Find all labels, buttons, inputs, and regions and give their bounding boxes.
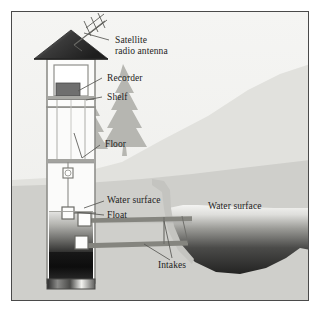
pulley (63, 168, 73, 178)
intake-valve-upper (78, 213, 91, 226)
label-satellite-radio-antenna: Satellite radio antenna (115, 35, 168, 57)
well-base-band (47, 279, 95, 289)
figure-stream-gaging-station: Satellite radio antenna Recorder Shelf F… (0, 0, 321, 313)
diagram-scene: Satellite radio antenna Recorder Shelf F… (12, 12, 308, 300)
label-float: Float (107, 210, 127, 221)
floor (48, 159, 94, 162)
label-intakes: Intakes (158, 260, 186, 271)
shelf (48, 96, 94, 99)
label-floor: Floor (105, 139, 126, 150)
well-sediment (49, 252, 93, 279)
label-water-surface-river: Water surface (208, 201, 262, 212)
intake-valve-lower (75, 236, 88, 249)
label-water-surface-well: Water surface (107, 195, 161, 206)
label-shelf: Shelf (107, 92, 128, 103)
float (62, 207, 74, 219)
figure-frame: Satellite radio antenna Recorder Shelf F… (11, 11, 309, 301)
label-recorder: Recorder (107, 73, 143, 84)
recorder (56, 83, 80, 96)
